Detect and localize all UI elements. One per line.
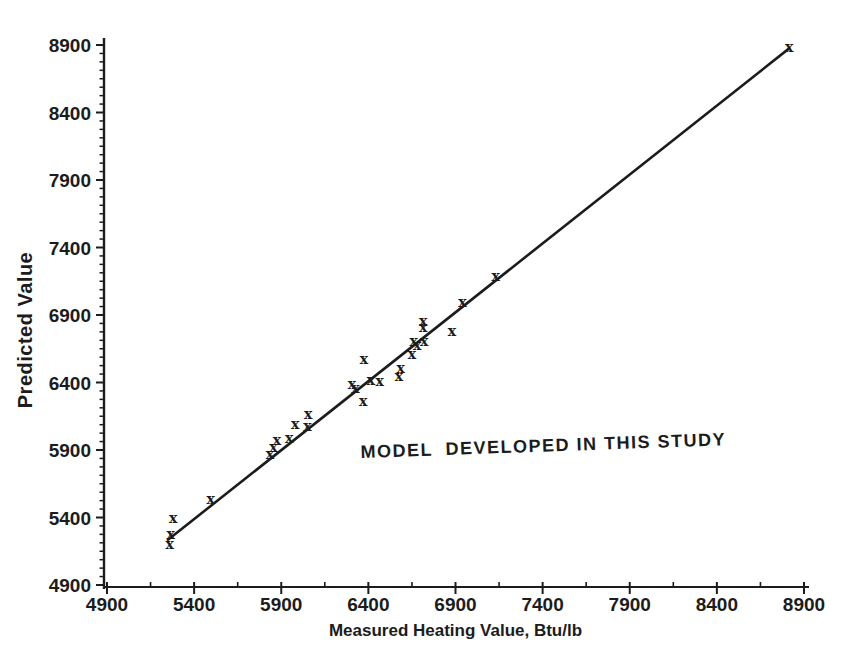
x-tick-label: 6900 [434, 594, 476, 615]
data-point-marker: x [291, 416, 300, 432]
fit-line [168, 48, 789, 539]
data-point-marker: x [785, 39, 794, 55]
x-tick-label: 5900 [260, 594, 302, 615]
data-point-marker: x [396, 360, 405, 376]
data-point-marker: x [419, 319, 428, 335]
data-point-marker: x [359, 393, 368, 409]
data-point-marker: x [420, 333, 429, 349]
y-tick-label: 8400 [49, 103, 91, 124]
data-point-marker: x [169, 510, 178, 526]
data-point-marker: x [166, 526, 175, 542]
data-point-marker: x [360, 351, 369, 367]
data-point-marker: x [376, 373, 385, 389]
data-point-marker: x [367, 372, 376, 388]
y-tick-label: 6400 [49, 373, 91, 394]
regression-line [168, 48, 789, 539]
data-point-marker: x [206, 491, 215, 507]
x-tick-label: 7400 [521, 594, 563, 615]
annotation-model-label: MODEL DEVELOPED IN THIS STUDY [360, 429, 726, 462]
data-point-marker: x [304, 406, 313, 422]
y-tick-label: 7900 [49, 170, 91, 191]
y-tick-label: 5900 [49, 440, 91, 461]
x-tick-label: 8400 [696, 594, 738, 615]
data-point-marker: x [273, 432, 282, 448]
data-point-marker: x [458, 294, 467, 310]
data-point-marker: x [491, 268, 500, 284]
y-tick-label: 8900 [49, 35, 91, 56]
x-tick-label: 8900 [783, 594, 825, 615]
x-axis-title: Measured Heating Value, Btu/lb [329, 621, 582, 640]
scatter-chart: 4900540059006400690074007900840089004900… [0, 0, 850, 669]
y-tick-label: 4900 [49, 575, 91, 596]
x-tick-label: 4900 [86, 594, 128, 615]
y-axis-title: Predicted Value [14, 252, 36, 408]
scatter-plot-figure: 4900540059006400690074007900840089004900… [0, 0, 850, 669]
x-tick-label: 5400 [173, 594, 215, 615]
x-tick-label: 6400 [347, 594, 389, 615]
tick-labels: 4900540059006400690074007900840089004900… [49, 35, 825, 615]
y-tick-label: 6900 [49, 305, 91, 326]
data-points: xxxxxxxxxxxxxxxxxxxxxxxxxxxxx [166, 39, 794, 552]
y-tick-label: 5400 [49, 508, 91, 529]
data-point-marker: x [448, 323, 457, 339]
y-tick-label: 7400 [49, 238, 91, 259]
x-tick-label: 7900 [609, 594, 651, 615]
